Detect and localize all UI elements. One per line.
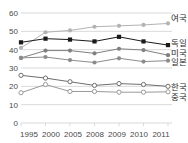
series-marker (141, 82, 145, 86)
series-marker (43, 30, 47, 34)
series-label-china: 중국 (171, 93, 187, 102)
series-marker (68, 48, 72, 52)
series-marker (68, 28, 72, 32)
series-label-germany: 독일 (171, 39, 187, 48)
series-marker (43, 82, 47, 86)
x-axis-tick-2009: 2009 (106, 130, 128, 139)
chart-container: 60 50 40 30 20 10 0 1995 2000 2005 2008 … (0, 0, 188, 143)
series-marker (68, 80, 72, 84)
series-marker (141, 23, 145, 27)
series-marker (117, 35, 121, 39)
series-marker (19, 40, 23, 44)
series-marker (166, 90, 170, 94)
series-marker (43, 48, 47, 52)
series-marker (43, 76, 47, 80)
series-marker (166, 53, 170, 57)
series-1 (19, 21, 170, 50)
series-marker (141, 39, 145, 43)
x-axis-tick-2008: 2008 (84, 130, 106, 139)
x-axis-tick-2005: 2005 (62, 130, 84, 139)
series-marker (68, 58, 72, 62)
series-marker (43, 37, 47, 41)
plot-area (0, 0, 188, 143)
series-marker (19, 73, 23, 77)
series-marker (92, 83, 96, 87)
series-marker (19, 46, 23, 50)
series-3 (19, 47, 170, 60)
series-marker (117, 90, 121, 94)
series-marker (117, 47, 121, 51)
series-2 (19, 35, 170, 47)
series-marker (92, 39, 96, 43)
series-marker (166, 59, 170, 63)
x-axis-tick-2000: 2000 (40, 130, 62, 139)
series-marker (117, 81, 121, 85)
series-marker (166, 43, 170, 47)
series-marker (166, 84, 170, 88)
series-label-uk: 여국 (171, 14, 187, 23)
series-marker (19, 56, 23, 60)
series-marker (141, 48, 145, 52)
series-4 (19, 55, 170, 65)
x-axis-tick-2010: 2010 (128, 130, 150, 139)
series-marker (166, 21, 170, 25)
series-marker (117, 56, 121, 60)
series-marker (92, 51, 96, 55)
x-axis-tick-2011: 2011 (150, 130, 172, 139)
series-marker (92, 89, 96, 93)
series-marker (68, 89, 72, 93)
series-marker (141, 59, 145, 63)
series-marker (92, 60, 96, 64)
series-marker (117, 24, 121, 28)
series-marker (68, 37, 72, 41)
series-marker (19, 91, 23, 95)
series-marker (43, 55, 47, 59)
series-marker (92, 25, 96, 29)
series-marker (141, 90, 145, 94)
series-label-japan: 일본 (171, 58, 187, 67)
series-label-korea: 한국 (171, 83, 187, 92)
x-axis-tick-1995: 1995 (18, 130, 40, 139)
